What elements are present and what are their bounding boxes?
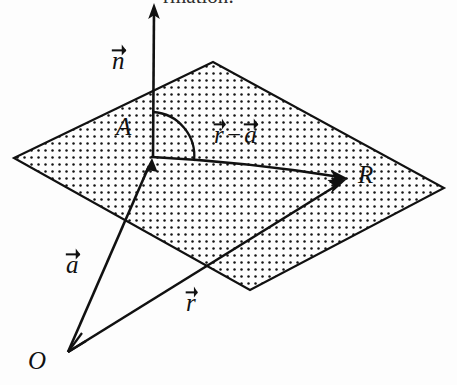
label-point-a: A	[116, 114, 131, 139]
label-position-vector-a: a	[66, 252, 79, 277]
label-a-text: a	[66, 251, 79, 278]
origin-vertex	[68, 333, 86, 352]
label-n-text: n	[112, 47, 125, 74]
plane-vector-diagram	[0, 0, 457, 385]
label-origin: O	[28, 348, 46, 373]
label-ra-operator: −	[224, 121, 245, 148]
label-ra-second: a	[244, 121, 257, 148]
label-r-text: r	[186, 289, 196, 316]
plane-surface	[14, 62, 444, 290]
label-ra-first: r	[214, 121, 224, 148]
label-difference-vector: r−a	[214, 122, 257, 147]
label-position-vector-r: r	[186, 290, 196, 315]
label-point-r: R	[358, 162, 373, 187]
label-normal-vector-n: n	[112, 48, 125, 73]
plane-fill	[14, 62, 444, 290]
